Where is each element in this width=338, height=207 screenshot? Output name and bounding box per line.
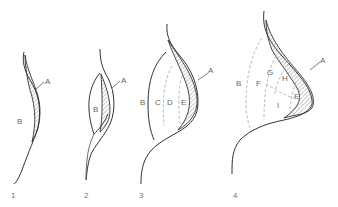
stage-1: A B 1 — [11, 52, 51, 200]
stage-4-label-f: F — [256, 79, 261, 88]
stage-2-label-a: A — [121, 76, 127, 85]
stage-3-label-b: B — [140, 98, 145, 107]
stage-4-boundary-fg — [264, 56, 276, 120]
stage-3-label-c: C — [155, 98, 161, 107]
stage-3-label-e: E — [181, 98, 186, 107]
stage-1-label-b: B — [17, 117, 22, 126]
stage-2-arrow-a — [112, 81, 120, 88]
stage-4-boundary-hi — [266, 84, 294, 98]
stage-4-number: 4 — [233, 191, 238, 200]
stage-3-label-a: A — [208, 66, 214, 75]
stage-2-number: 2 — [84, 191, 89, 200]
stage-2: A B 2 — [84, 49, 127, 200]
stage-1-arrow-a — [36, 82, 44, 89]
stage-4-label-i: I — [277, 101, 279, 110]
stage-1-label-a: A — [45, 77, 51, 86]
growth-stages-diagram: A B 1 A B 2 A B C D E 3 A — [0, 0, 338, 207]
stage-1-number: 1 — [11, 191, 16, 200]
stage-3-arrow-a — [198, 73, 208, 80]
stage-4-label-g: G — [267, 68, 273, 77]
stage-3-boundary-cd — [163, 66, 172, 126]
stage-4-label-b: B — [236, 79, 241, 88]
stage-3-hatched-layer-a — [168, 40, 197, 130]
stage-2-hatched-layer-a — [100, 74, 110, 132]
stage-4-label-e: E — [294, 92, 299, 101]
stage-3-number: 3 — [139, 191, 144, 200]
stage-4: A B F G H E I 4 — [232, 11, 326, 200]
stage-4-arrow-a — [310, 62, 320, 70]
stage-4-label-h: H — [282, 74, 288, 83]
stage-1-hatched-layer-a — [25, 55, 40, 142]
stage-3: A B C D E 3 — [139, 24, 214, 200]
stage-3-region-b-outline — [148, 52, 166, 140]
stage-2-label-b: B — [93, 105, 98, 114]
stage-4-label-a: A — [320, 56, 326, 65]
stage-3-label-d: D — [167, 98, 173, 107]
